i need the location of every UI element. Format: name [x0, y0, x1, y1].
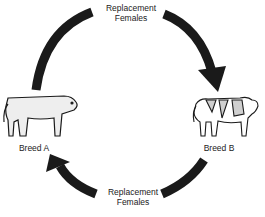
cycle-diagram	[0, 0, 265, 217]
arrowhead-down-icon	[198, 66, 226, 92]
solid-cow-icon	[4, 96, 77, 136]
bottom-edge-label-line1: Replacement	[97, 187, 169, 197]
bottom-edge-label-line2: Females	[97, 197, 169, 207]
top-edge-label-line1: Replacement	[95, 3, 167, 13]
top-edge-label: Replacement Females	[95, 3, 167, 23]
spotted-cow-icon	[193, 97, 258, 136]
breed-b-label: Breed B	[199, 143, 239, 153]
arrow-arc-top-left	[36, 12, 92, 90]
bottom-edge-label: Replacement Females	[97, 187, 169, 207]
top-edge-label-line2: Females	[95, 13, 167, 23]
breed-a-label: Breed A	[14, 143, 54, 153]
arrow-arc-top-right	[164, 14, 212, 72]
arrow-arc-bottom-left	[60, 166, 96, 194]
